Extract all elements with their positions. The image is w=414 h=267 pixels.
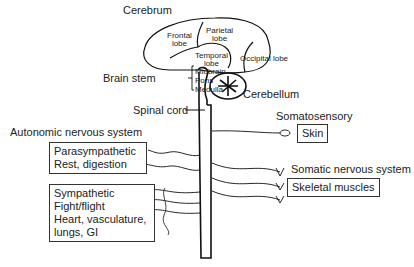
skeletal-muscles-box: Skeletal muscles (287, 178, 380, 197)
occipital-lobe-label: Occipital lobe (240, 55, 288, 63)
brain-stem-label: Brain stem (103, 73, 156, 84)
somatosensory-label: Somatosensory (276, 111, 352, 122)
spinal-cord-label: Spinal cord (133, 105, 188, 116)
skin-box: Skin (297, 124, 328, 143)
parietal-lobe-label: Parietal lobe (206, 27, 233, 43)
cerebrum-label: Cerebrum (123, 5, 172, 16)
sympathetic-box: Sympathetic Fight/flight Heart, vasculat… (49, 184, 155, 242)
frontal-lobe-label: Frontal lobe (167, 32, 192, 48)
cerebellum-label: Cerebellum (243, 89, 299, 100)
brain-stem-parts: Midbrain Pons Medulla (195, 67, 226, 94)
somatic-label: Somatic nervous system (291, 164, 411, 175)
temporal-lobe-label: Temporal lobe (195, 52, 228, 68)
autonomic-label: Autonomic nervous system (10, 127, 142, 138)
parasympathetic-box: Parasympathetic Rest, digestion (49, 142, 147, 174)
spinal-cord (199, 100, 211, 258)
